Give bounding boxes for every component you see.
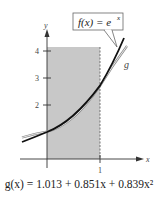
chart-caption: g(x) = 1.013 + 0.851x + 0.839x²	[0, 178, 158, 190]
y-axis-label: y	[43, 21, 48, 30]
shaded-region	[47, 47, 100, 159]
x-axis-label: x	[145, 155, 150, 164]
chart-figure: f(x) = e x g y x 4 3 2 1 g(x) = 1.013 + …	[0, 0, 158, 200]
y-tick-label-3: 3	[35, 74, 39, 83]
f-label-pointer	[104, 30, 117, 47]
x-tick-label-1: 1	[98, 166, 102, 175]
y-tick-label-2: 2	[35, 101, 39, 110]
x-axis-arrow-icon	[136, 157, 144, 162]
y-tick-label-4: 4	[35, 47, 39, 56]
f-label-text: f(x) = e	[78, 16, 111, 29]
plot-area: f(x) = e x g y x 4 3 2 1	[0, 0, 158, 200]
y-axis-arrow-icon	[45, 29, 50, 37]
g-label: g	[124, 59, 129, 70]
